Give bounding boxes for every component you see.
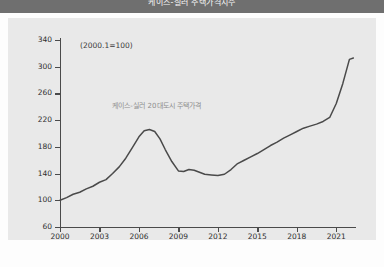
screenshot-root: 케이스-실러 주택가격지수 60100140180220260300340 20… bbox=[0, 0, 384, 267]
chart-card: 60100140180220260300340 2000200320062009… bbox=[8, 18, 376, 240]
chart-plot-area: 60100140180220260300340 2000200320062009… bbox=[8, 18, 376, 240]
header-title: 케이스-실러 주택가격지수 bbox=[148, 0, 236, 7]
series-line-case-shiller bbox=[8, 18, 376, 240]
header-bar: 케이스-실러 주택가격지수 bbox=[0, 0, 384, 13]
